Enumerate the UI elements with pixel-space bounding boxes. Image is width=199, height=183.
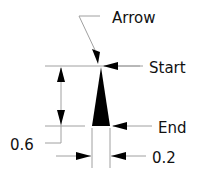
arrow-leader-arrowhead-icon <box>92 49 100 64</box>
width-left-arrow-icon <box>76 152 91 160</box>
arrow-leader-line <box>79 16 100 50</box>
end-arrowhead-icon <box>112 122 127 130</box>
label-arrow: Arrow <box>112 9 155 27</box>
start-arrowhead-icon <box>103 62 118 70</box>
label-end: End <box>158 119 187 137</box>
label-start: Start <box>149 59 186 77</box>
width-right-arrow-icon <box>111 152 126 160</box>
arrowhead-shape <box>92 67 110 126</box>
height-bottom-arrow-icon <box>57 110 65 125</box>
label-height-dimension: 0.6 <box>10 136 34 154</box>
label-width-dimension: 0.2 <box>152 149 176 167</box>
arrow-dimension-diagram: Arrow Start End 0.6 0.2 <box>0 0 199 183</box>
height-top-arrow-icon <box>57 67 65 82</box>
